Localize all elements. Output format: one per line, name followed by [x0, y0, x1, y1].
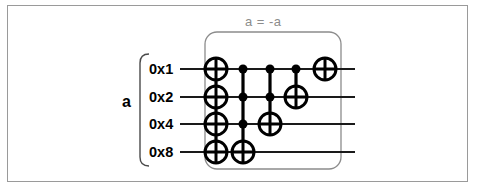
circuit-canvas	[0, 0, 477, 190]
column-1-not-all-target-0x1	[205, 58, 227, 80]
column-1-not-all-target-0x8	[205, 141, 227, 163]
column-2-toffoli-0x8-control-0x1	[239, 65, 248, 74]
column-3-toffoli-0x4-control-0x1	[266, 65, 275, 74]
column-4-cnot-0x2-target-0x2	[285, 86, 307, 108]
column-2-toffoli-0x8-control-0x2	[239, 93, 248, 102]
quantum-circuit-figure: a = -a a 0x10x20x40x8	[0, 0, 477, 190]
column-3-toffoli-0x4-control-0x2	[266, 93, 275, 102]
column-2-toffoli-0x8-control-0x4	[239, 120, 248, 129]
column-5-not-0x1-target-0x1	[314, 58, 336, 80]
column-1-not-all-target-0x4	[205, 113, 227, 135]
column-4-cnot-0x2-control-0x1	[292, 65, 301, 74]
column-3-toffoli-0x4-target-0x4	[259, 113, 281, 135]
brace-path	[140, 54, 149, 166]
column-2-toffoli-0x8-target-0x8	[232, 141, 254, 163]
column-1-not-all-target-0x2	[205, 86, 227, 108]
gate-group	[205, 58, 336, 163]
qubit-wires	[180, 69, 355, 152]
register-brace	[140, 54, 149, 166]
